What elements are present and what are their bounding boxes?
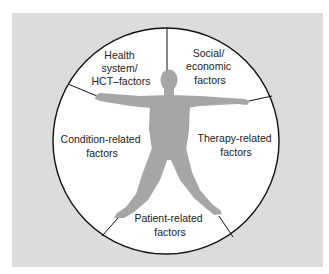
adherence-diagram: Health system/ HCT–factors Social/ econo… <box>0 0 329 274</box>
